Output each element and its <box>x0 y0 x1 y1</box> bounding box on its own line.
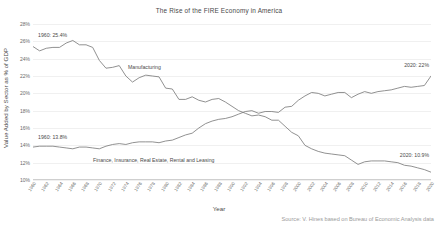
x-axis-tick-label: 2004 <box>319 181 329 192</box>
x-axis-tick-label: 1980 <box>160 181 170 192</box>
x-axis-tick-label: 1968 <box>80 181 90 192</box>
x-axis-tick-label: 2010 <box>359 181 369 192</box>
y-axis-tick-label: 12% <box>20 160 30 166</box>
x-axis-tick-label: 1972 <box>107 181 117 192</box>
chart-container: The Rise of the FIRE Economy in America … <box>0 0 438 229</box>
y-axis-title-text: Value Added by Sector as % of GDP <box>2 38 9 158</box>
annotation-fire-end: 2020: 22% <box>404 62 429 68</box>
x-axis-tick-label: 1976 <box>133 181 143 192</box>
x-axis-tick-label: 1984 <box>186 181 196 192</box>
x-axis-tick-label: 2014 <box>385 181 395 192</box>
x-axis-tick-label: 1962 <box>40 181 50 192</box>
x-axis-tick-label: 1986 <box>200 181 210 192</box>
plot-area: 10%12%14%16%18%20%22%24%26%28% Manufactu… <box>33 24 431 180</box>
annotation-manufacturing-start: 1960: 25.4% <box>38 32 67 38</box>
x-axis-tick-label: 1974 <box>120 181 130 192</box>
x-axis-tick-label: 1996 <box>266 181 276 192</box>
x-axis-tick-label: 2000 <box>292 181 302 192</box>
y-axis-tick-label: 18% <box>20 108 30 114</box>
x-axis-tick-label: 1998 <box>279 181 289 192</box>
x-axis-tick-label: 1978 <box>147 181 157 192</box>
x-axis-tick-label: 1982 <box>173 181 183 192</box>
x-axis-tick-label: 2018 <box>412 181 422 192</box>
annotation-fire-start: 1960: 13.8% <box>38 134 67 140</box>
x-axis-tick-label: 1964 <box>54 181 64 192</box>
y-axis-tick-label: 16% <box>20 125 30 131</box>
annotation-manufacturing-end: 2020: 10.9% <box>400 152 429 158</box>
y-axis-title: Value Added by Sector as % of GDP <box>2 0 9 38</box>
x-axis-title: Year <box>0 205 438 212</box>
series-label-manufacturing: Manufacturing <box>128 64 161 70</box>
line-manufacturing <box>33 40 431 172</box>
y-axis-tick-label: 28% <box>20 21 30 27</box>
line-fire <box>33 76 431 149</box>
y-axis-tick-label: 14% <box>20 142 30 148</box>
x-axis-tick-label: 1990 <box>226 181 236 192</box>
x-axis-tick-label: 1992 <box>239 181 249 192</box>
source-note: Source: V. Hines based on Bureau of Econ… <box>282 216 434 222</box>
y-axis-tick-label: 20% <box>20 90 30 96</box>
x-axis-tick-label: 2002 <box>306 181 316 192</box>
x-axis-tick-label: 2016 <box>399 181 409 192</box>
y-axis-tick-label: 10% <box>20 177 30 183</box>
x-axis-tick-label: 1966 <box>67 181 77 192</box>
y-axis-tick-label: 22% <box>20 73 30 79</box>
x-axis-tick-label: 2020 <box>425 181 435 192</box>
x-axis-tick-label: 2012 <box>372 181 382 192</box>
x-axis-ticks: 1960196219641966196819701972197419761978… <box>33 181 431 205</box>
x-axis-tick-label: 2008 <box>346 181 356 192</box>
x-axis-tick-label: 2006 <box>332 181 342 192</box>
series-label-fire: Finance, Insurance, Real Estate, Rental … <box>93 157 214 163</box>
x-axis-tick-label: 1994 <box>253 181 263 192</box>
x-axis-tick-label: 1970 <box>93 181 103 192</box>
y-axis-tick-label: 24% <box>20 56 30 62</box>
x-axis-tick-label: 1988 <box>213 181 223 192</box>
y-axis-tick-label: 26% <box>20 38 30 44</box>
chart-title: The Rise of the FIRE Economy in America <box>0 7 438 14</box>
